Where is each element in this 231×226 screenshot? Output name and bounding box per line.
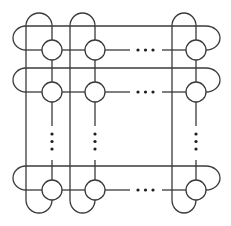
torus-grid-diagram: Grid of nodes with wrap-around connectio…: [0, 0, 231, 226]
node-r2-cn: [186, 82, 206, 102]
node-r2-c2: [85, 82, 105, 102]
node-r1-c1: [42, 40, 62, 60]
row-1-left-arc: [13, 26, 26, 50]
column-1-top-arc: [26, 13, 52, 26]
column-1-bottom-arc: [26, 200, 52, 213]
node-r2-c1: [42, 82, 62, 102]
column-n-top-arc: [172, 13, 196, 26]
vertical-ellipsis-col-n: [194, 132, 197, 150]
row-n-left-arc: [13, 166, 26, 190]
column-n-bottom-arc: [172, 200, 196, 213]
node-rn-cn: [186, 180, 206, 200]
node-r1-cn: [186, 40, 206, 60]
horizontal-ellipsis-row-2: [136, 90, 154, 93]
row-2-right-arc: [206, 68, 220, 92]
node-rn-c1: [42, 180, 62, 200]
node-r1-c2: [85, 40, 105, 60]
vertical-ellipsis-col-1: [50, 132, 53, 150]
node-rn-c2: [85, 180, 105, 200]
column-2-top-arc: [70, 13, 95, 26]
nodes: [42, 40, 206, 200]
horizontal-ellipsis-row-1: [136, 48, 154, 51]
row-2-left-arc: [13, 68, 26, 92]
row-1-right-arc: [206, 26, 220, 50]
row-n-right-arc: [206, 166, 220, 190]
column-2-bottom-arc: [70, 200, 95, 213]
horizontal-ellipsis-row-n: [136, 188, 154, 191]
vertical-ellipsis-col-2: [93, 132, 96, 150]
